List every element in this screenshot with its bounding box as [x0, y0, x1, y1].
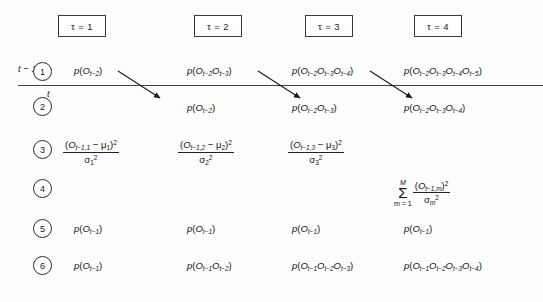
cell-row2-col2: p(Ot−2) — [187, 103, 215, 114]
symbol-p: p — [187, 65, 192, 76]
sub-t-5: t−5 — [470, 70, 479, 77]
cell-row6-col1: p(Ot−1) — [74, 261, 102, 272]
sub-t-2: t−2 — [420, 70, 429, 77]
symbol-O: O — [300, 102, 307, 113]
symbol-p: p — [404, 223, 409, 234]
symbol-O: O — [334, 65, 341, 76]
sub-t-1: t−1 — [90, 265, 99, 272]
minus-sign: − — [318, 139, 324, 150]
sub-t-1-3: t−1,3 — [301, 144, 316, 151]
sub-t-1-m: t−1,m — [425, 184, 441, 191]
sub-t-4: t−4 — [470, 265, 479, 272]
sup-2: 2 — [338, 139, 342, 146]
symbol-O: O — [462, 65, 469, 76]
symbol-O: O — [82, 65, 89, 76]
fraction-1: (Ot−1,1 − μ1)2 σ12 — [63, 139, 119, 166]
tau-header-label-2: τ = 2 — [207, 21, 229, 32]
cell-row3-col3: (Ot−1,3 − μ3)2 σ32 — [288, 139, 344, 166]
sub-t-2: t−2 — [420, 107, 429, 114]
sub-t-1: t−1 — [420, 265, 429, 272]
cell-row2-col4: p(Ot−2Ot−3Ot−4) — [404, 103, 465, 114]
sub-t-2: t−2 — [219, 265, 228, 272]
sub-t-4: t−4 — [453, 107, 462, 114]
fraction-numerator-sum: (Ot−1,m)2 — [413, 180, 451, 194]
symbol-p: p — [292, 65, 297, 76]
sub-t-2: t−2 — [308, 107, 317, 114]
tau-header-box-2: τ = 2 — [194, 15, 242, 37]
cell-row1-col3: p(Ot−2Ot−3Ot−4) — [292, 66, 353, 77]
sup-2: 2 — [113, 139, 117, 146]
cell-row5-col2: p(Ot−1) — [187, 224, 215, 235]
symbol-O: O — [293, 139, 300, 150]
sup-2: 2 — [435, 194, 439, 201]
tau-header-box-3: τ = 3 — [305, 15, 353, 37]
sub-t-3: t−3 — [341, 265, 350, 272]
cell-row1-col2: p(Ot−2Ot−3) — [187, 66, 232, 77]
symbol-p: p — [292, 102, 297, 113]
cell-row6-col3: p(Ot−1Ot−2Ot−3) — [292, 261, 353, 272]
row-marker-label-3: 3 — [40, 145, 45, 155]
sub-t-1: t−1 — [203, 228, 212, 235]
fraction-numerator-1: (Ot−1,1 − μ1)2 — [63, 139, 119, 153]
minus-sign: − — [208, 139, 214, 150]
summation-expression: M Σ m = 1 (Ot−1,m)2 σm2 — [394, 179, 450, 207]
time-label-below: t — [47, 88, 50, 99]
cell-row6-col2: p(Ot−1Ot−2) — [187, 261, 232, 272]
tau-header-label-1: τ = 1 — [71, 21, 93, 32]
symbol-O: O — [195, 223, 202, 234]
cell-row5-col1: p(Ot−1) — [74, 224, 102, 235]
symbol-p: p — [292, 260, 297, 271]
sub-t-1-2: t−1,2 — [191, 144, 206, 151]
symbol-O: O — [412, 223, 419, 234]
row-marker-4: 4 — [33, 179, 52, 198]
fraction-denominator-2: σ22 — [178, 153, 234, 166]
fraction-3: (Ot−1,3 − μ3)2 σ32 — [288, 139, 344, 166]
sub-t-1: t−1 — [308, 228, 317, 235]
sub-t-2: t−2 — [436, 265, 445, 272]
sub-t-2: t−2 — [203, 107, 212, 114]
sub-t-1: t−1 — [420, 228, 429, 235]
figure-canvas: τ = 1 τ = 2 τ = 3 τ = 4 t − 1 t 1 2 3 4 … — [0, 0, 543, 302]
sub-t-3: t−3 — [436, 107, 445, 114]
tau-header-box-4: τ = 4 — [414, 15, 462, 37]
cell-row6-col4: p(Ot−1Ot−2Ot−3Ot−4) — [404, 261, 482, 272]
sup-2: 2 — [445, 180, 449, 187]
symbol-O: O — [462, 260, 469, 271]
symbol-p: p — [74, 260, 79, 271]
symbol-O: O — [446, 102, 453, 113]
symbol-O: O — [300, 65, 307, 76]
symbol-p: p — [404, 65, 409, 76]
row-marker-1: 1 — [33, 62, 52, 81]
fraction-sum: (Ot−1,m)2 σm2 — [413, 180, 451, 207]
sub-t-4: t−4 — [453, 70, 462, 77]
sup-2: 2 — [94, 154, 98, 161]
symbol-p: p — [292, 223, 297, 234]
sub-t-1: t−1 — [90, 228, 99, 235]
sub-t-3: t−3 — [324, 70, 333, 77]
symbol-O: O — [195, 65, 202, 76]
cell-row2-col3: p(Ot−2Ot−3) — [292, 103, 337, 114]
tau-header-label-4: τ = 4 — [427, 21, 449, 32]
symbol-O: O — [412, 102, 419, 113]
symbol-O: O — [334, 260, 341, 271]
minus-sign: − — [93, 139, 99, 150]
cell-row1-col4: p(Ot−2Ot−3Ot−4Ot−5) — [404, 66, 482, 77]
row-marker-2: 2 — [33, 97, 52, 116]
symbol-O: O — [195, 102, 202, 113]
symbol-O: O — [446, 260, 453, 271]
tau-header-box-1: τ = 1 — [58, 15, 106, 37]
sub-t-2: t−2 — [324, 265, 333, 272]
row-marker-label-2: 2 — [40, 102, 45, 112]
symbol-p: p — [404, 260, 409, 271]
symbol-p: p — [187, 102, 192, 113]
cell-row3-col1: (Ot−1,1 − μ1)2 σ12 — [63, 139, 119, 166]
row-marker-label-4: 4 — [40, 184, 45, 194]
fraction-2: (Ot−1,2 − μ2)2 σ22 — [178, 139, 234, 166]
fraction-denominator-3: σ32 — [288, 153, 344, 166]
symbol-O: O — [412, 260, 419, 271]
sup-2: 2 — [209, 154, 213, 161]
sub-3: 3 — [331, 144, 335, 151]
tau-header-label-3: τ = 3 — [318, 21, 340, 32]
sup-2: 2 — [228, 139, 232, 146]
summation-lower-limit: m = 1 — [394, 200, 412, 207]
